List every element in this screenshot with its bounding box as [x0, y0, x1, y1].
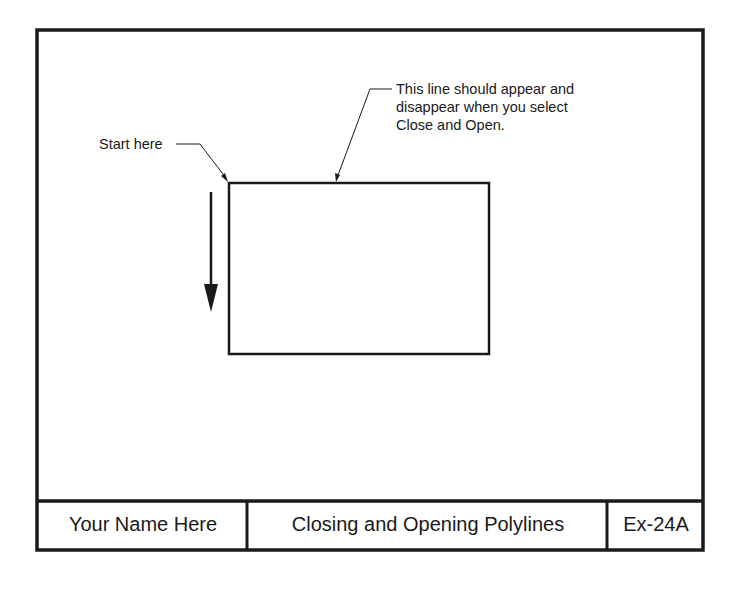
- note-line: Close and Open.: [396, 116, 574, 134]
- title-block-exercise: Ex-24A: [609, 513, 703, 536]
- note-line: disappear when you select: [396, 98, 574, 116]
- note-leader: [335, 89, 392, 182]
- polyline-rectangle[interactable]: [229, 183, 489, 354]
- down-arrow-icon: [204, 192, 218, 312]
- note-line: This line should appear and: [396, 80, 574, 98]
- note-text: This line should appear and disappear wh…: [396, 80, 574, 134]
- title-block-title: Closing and Opening Polylines: [249, 513, 607, 536]
- drawing-sheet: [0, 0, 740, 589]
- start-here-label: Start here: [99, 135, 163, 153]
- title-block-name: Your Name Here: [39, 513, 247, 536]
- start-here-leader: [176, 144, 228, 182]
- sheet-border: [37, 30, 703, 550]
